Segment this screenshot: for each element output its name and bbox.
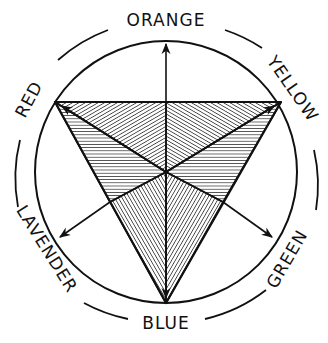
label-blue: BLUE [142, 313, 189, 333]
label-red: RED [11, 77, 47, 121]
arrow-to-green [223, 202, 272, 237]
color-wheel-diagram: ORANGE YELLOW GREEN BLUE LAVENDER RED [0, 0, 328, 343]
primary-triangle [55, 102, 281, 303]
label-orange: ORANGE [127, 10, 206, 30]
label-lavender: LAVENDER [12, 201, 81, 296]
arrow-to-lavender [60, 202, 110, 237]
